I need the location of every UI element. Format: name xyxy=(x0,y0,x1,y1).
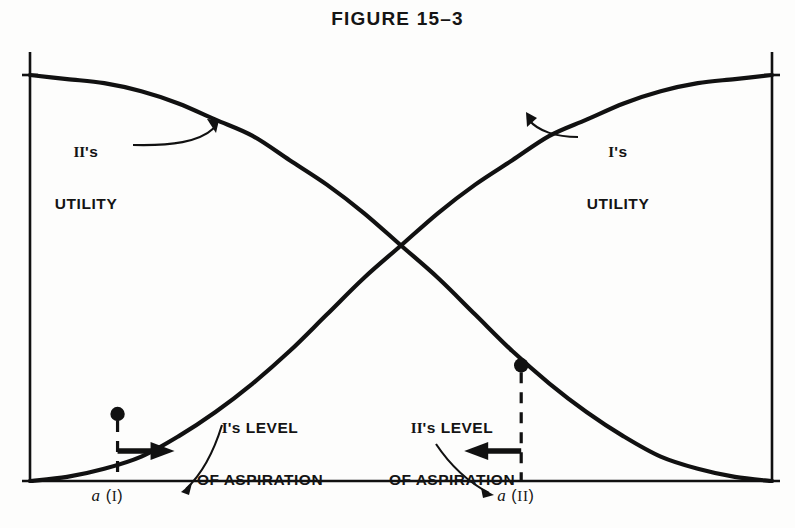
label-a-one: a (I) xyxy=(92,486,124,505)
label-aspiration-two-line1: II's LEVEL xyxy=(362,419,542,437)
label-a-two: a (II) xyxy=(497,486,534,505)
label-aspiration-one-line2: OF ASPIRATION xyxy=(170,471,350,488)
label-aspiration-one: I's LEVEL OF ASPIRATION xyxy=(170,384,350,523)
label-player-two-utility: II's UTILITY xyxy=(36,108,136,247)
label-player-two-utility-line1: II's xyxy=(36,143,136,161)
label-player-one-utility: I's UTILITY xyxy=(568,108,668,247)
pointer-player-two-utility xyxy=(133,119,219,145)
label-player-two-utility-line2: UTILITY xyxy=(36,195,136,212)
label-player-one-utility-line2: UTILITY xyxy=(568,195,668,212)
marker-dot-a-one xyxy=(110,407,124,421)
figure-container: FIGURE 15–3 xyxy=(0,0,795,528)
label-aspiration-one-line1: I's LEVEL xyxy=(170,419,350,437)
label-player-one-utility-line1: I's xyxy=(568,143,668,161)
marker-dot-a-two xyxy=(514,358,528,372)
